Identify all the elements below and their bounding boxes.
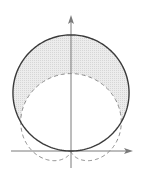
polar-diagram <box>0 0 143 180</box>
